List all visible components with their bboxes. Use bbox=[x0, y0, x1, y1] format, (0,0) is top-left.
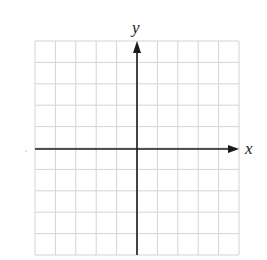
x-axis-arrowhead-icon bbox=[228, 145, 239, 153]
y-axis-label: y bbox=[130, 18, 140, 37]
coordinate-plane: x y bbox=[0, 0, 267, 260]
y-axis-arrowhead-icon bbox=[133, 41, 141, 53]
x-axis-label: x bbox=[244, 139, 253, 158]
stray-dot bbox=[25, 150, 27, 152]
